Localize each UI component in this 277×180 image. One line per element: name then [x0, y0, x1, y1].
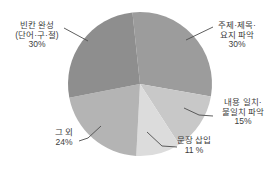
slice-value-label: 30%: [4, 40, 70, 50]
slice-label-binkan: 빈칸 완성 (단어·구·절) 30%: [4, 21, 70, 50]
slice-value-label: 24%: [39, 138, 89, 148]
slice-label-juje: 주제·제목· 요지 파악 30%: [202, 21, 272, 50]
slice-label-naeyong: 내용 일치· 불일치 파악 15%: [209, 98, 277, 127]
slice-value-label: 11 %: [164, 146, 224, 156]
pie-chart-figure: 빈칸 완성 (단어·구·절) 30% 주제·제목· 요지 파악 30% 내용 일…: [0, 0, 277, 180]
pie-slice-0: [132, 12, 212, 97]
pie-slice-4: [68, 12, 140, 97]
slice-label-munjang: 문장 삽입 11 %: [164, 136, 224, 155]
slice-value-label: 15%: [209, 117, 277, 127]
slice-label-geuoe: 그 외 24%: [39, 128, 89, 147]
slice-value-label: 30%: [202, 40, 272, 50]
